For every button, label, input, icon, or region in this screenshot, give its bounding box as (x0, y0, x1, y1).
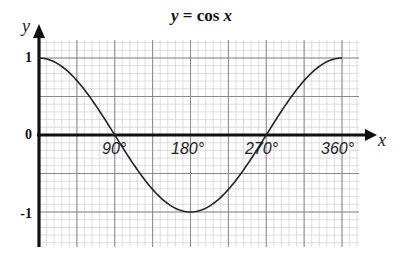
y-axis-label: y (22, 16, 30, 37)
y-tick-1: 1 (2, 50, 32, 66)
cosine-graph (0, 0, 403, 265)
x-tick-180: 180° (171, 140, 204, 158)
x-axis-label: x (378, 130, 386, 151)
y-tick-minus-1: -1 (2, 206, 32, 222)
x-tick-360: 360° (321, 140, 354, 158)
y-tick-0: 0 (2, 127, 32, 143)
x-tick-270: 270° (245, 140, 278, 158)
x-tick-90: 90° (102, 140, 126, 158)
